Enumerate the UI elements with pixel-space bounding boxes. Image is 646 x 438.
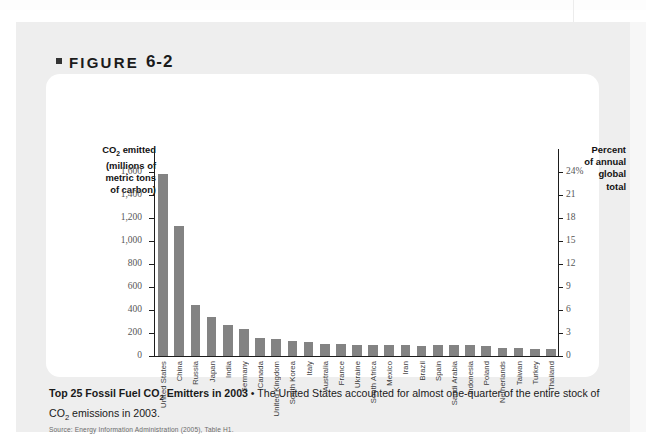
y-tick-right [558,356,563,357]
bar [239,329,249,356]
figure-source: Source: Energy Information Administratio… [49,426,509,433]
bar [174,226,184,356]
bar [514,348,524,356]
chart-panel: CO2 emitted(millions ofmetric tonsof car… [46,74,599,377]
y-tick-left [149,241,154,242]
bar [271,339,281,356]
bar [336,344,346,356]
bar [401,345,411,356]
y-axis-right-line [558,149,559,356]
x-axis-label: Canada [256,361,265,388]
x-axis-label: Ukraine [353,361,362,388]
page-bleed [0,0,646,10]
caption-separator: • [248,387,257,399]
y-tick-right [558,264,563,265]
bar [465,345,475,356]
y-tick-label-left: 200 [82,327,142,337]
y-tick-label-left: 800 [82,258,142,268]
bar [352,345,362,356]
x-axis-label: Mexico [385,361,394,386]
bar [304,342,314,356]
y-tick-right [558,333,563,334]
figure-label: FIGURE 6-2 [56,52,173,72]
bar [498,348,508,356]
bar [449,345,459,356]
x-axis-label: Spain [434,361,443,381]
bullet-square-icon [56,58,62,64]
caption-bold-1: Top 25 Fossil Fuel CO [49,387,159,399]
y-tick-label-right: 0 [566,350,571,360]
x-axis-label: Italy [305,361,314,375]
y-tick-label-left: 1,000 [82,235,142,245]
y-tick-label-right: 21 [566,189,576,199]
y-tick-right [558,195,563,196]
y-tick-left [149,333,154,334]
y-tick-right [558,172,563,173]
figure-caption: Top 25 Fossil Fuel CO2 Emitters in 2003 … [49,386,604,425]
y-tick-left [149,310,154,311]
x-axis-label: Taiwan [515,361,524,385]
bar [320,344,330,356]
y-tick-right [558,287,563,288]
y-tick-label-left: 400 [82,304,142,314]
x-axis-label: France [337,361,346,385]
page-margin-line [573,0,574,22]
y-tick-label-right: 6 [566,304,571,314]
x-axis-label: Russia [191,361,200,385]
bar [546,349,556,356]
caption-body-2: emissions in 2003. [69,407,160,419]
bar [288,341,298,356]
bar [207,317,217,356]
x-axis-label: Iran [401,361,410,375]
bar [158,174,168,356]
bar [417,346,427,356]
y-tick-label-left: 0 [82,350,142,360]
x-axis-label: Turkey [531,361,540,385]
figure-label-text: FIGURE [69,54,139,71]
bar [384,345,394,356]
caption-bold-2: Emitters in 2003 [164,387,248,399]
x-axis-label: Japan [208,361,217,382]
y-tick-label-left: 1,600 [82,166,142,176]
y-tick-left [149,172,154,173]
y-tick-label-right: 9 [566,281,571,291]
y-tick-label-left: 1,400 [82,189,142,199]
bar [223,325,233,357]
page-right-edge [630,22,646,432]
y-tick-left [149,264,154,265]
y-tick-right [558,310,563,311]
plot-area: 02004006008001,0001,2001,4001,6000369121… [154,149,558,356]
x-axis-label: Poland [482,361,491,385]
y-tick-label-right: 3 [566,327,571,337]
figure-page: FIGURE 6-2 CO2 emitted(millions ofmetric… [0,0,646,438]
y-axis-left-line [154,149,155,356]
bar [255,338,265,356]
bar [481,346,491,356]
y-tick-left [149,287,154,288]
y-tick-label-left: 1,200 [82,212,142,222]
y-tick-label-right: 12 [566,258,576,268]
x-axis-label: India [224,361,233,378]
y-tick-label-right: 15 [566,235,576,245]
bar [191,305,201,356]
figure-number: 6-2 [146,52,174,72]
y-tick-left [149,356,154,357]
x-axis-label: China [175,361,184,381]
y-tick-right [558,218,563,219]
y-tick-left [149,218,154,219]
y-tick-right [558,241,563,242]
bar [530,349,540,356]
x-axis-line [154,356,558,357]
bar [368,345,378,356]
y-tick-label-right: 18 [566,212,576,222]
y-tick-left [149,195,154,196]
bar [433,345,443,356]
y-tick-label-right: 24% [566,166,583,176]
y-tick-label-left: 600 [82,281,142,291]
x-axis-label: Brazil [418,361,427,381]
figure-block: FIGURE 6-2 CO2 emitted(millions ofmetric… [16,22,630,432]
